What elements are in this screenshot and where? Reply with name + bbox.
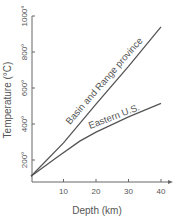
y-tick-label: 600°: [20, 80, 29, 97]
axes: [32, 16, 173, 184]
x-tick-label: 20: [92, 187, 101, 196]
series-line-0: [31, 27, 161, 176]
series-line-1: [31, 103, 161, 176]
geotherm-chart: 200°400°600°800°1000° 10203040 Basin and…: [0, 0, 178, 219]
y-axis-ticks: 200°400°600°800°1000°: [20, 6, 35, 169]
series-lines: Basin and Range provinceEastern U.S.: [31, 27, 161, 176]
x-tick-label: 30: [124, 187, 133, 196]
y-tick-label: 400°: [20, 116, 29, 133]
x-axis-arrow-icon: [168, 180, 173, 184]
x-tick-label: 10: [59, 187, 68, 196]
y-tick-label: 200°: [20, 152, 29, 169]
y-axis-label: Temperature (°C): [2, 62, 13, 139]
y-tick-label: 1000°: [20, 6, 29, 27]
y-tick-label: 800°: [20, 44, 29, 61]
x-axis-label: Depth (km): [72, 205, 121, 216]
x-tick-label: 40: [157, 187, 166, 196]
